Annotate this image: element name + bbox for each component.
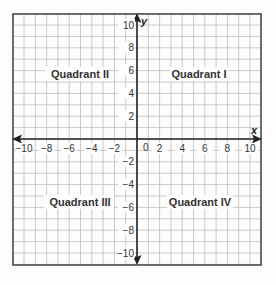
x-tick-label: 10: [244, 143, 256, 154]
x-tick-label: −4: [86, 143, 98, 154]
x-tick-label: −8: [41, 143, 53, 154]
quadrant-iii-label: Quadrant III: [49, 196, 110, 208]
x-axis-label: x: [250, 124, 258, 136]
y-tick-label: 4: [128, 88, 134, 99]
y-tick-label: 6: [128, 65, 134, 76]
y-tick-label: −6: [123, 202, 135, 213]
y-tick-label: 8: [128, 42, 134, 53]
axes: [12, 13, 262, 265]
y-tick-label: −10: [117, 248, 134, 259]
x-tick-label: −2: [109, 143, 121, 154]
y-tick-label: −2: [123, 156, 135, 167]
x-tick-label: 4: [179, 143, 185, 154]
y-tick-label: 10: [123, 20, 135, 31]
quadrant-i-label: Quadrant I: [171, 68, 226, 80]
origin-label: 0: [143, 142, 149, 153]
y-axis-label: y: [140, 15, 148, 27]
y-tick-label: −4: [123, 179, 135, 190]
x-tick-label: 8: [225, 143, 231, 154]
x-tick-label: 6: [202, 143, 208, 154]
y-tick-label: 2: [128, 111, 134, 122]
x-tick-label: −10: [16, 143, 33, 154]
x-tick-label: −6: [63, 143, 75, 154]
quadrant-ii-label: Quadrant II: [51, 68, 109, 80]
y-tick-label: −8: [123, 225, 135, 236]
quadrant-iv-label: Quadrant IV: [169, 196, 232, 208]
coordinate-plane: −10−8−6−4−2246810 108642−2−4−6−8−10 0 x …: [0, 0, 276, 285]
x-tick-label: 2: [157, 143, 163, 154]
